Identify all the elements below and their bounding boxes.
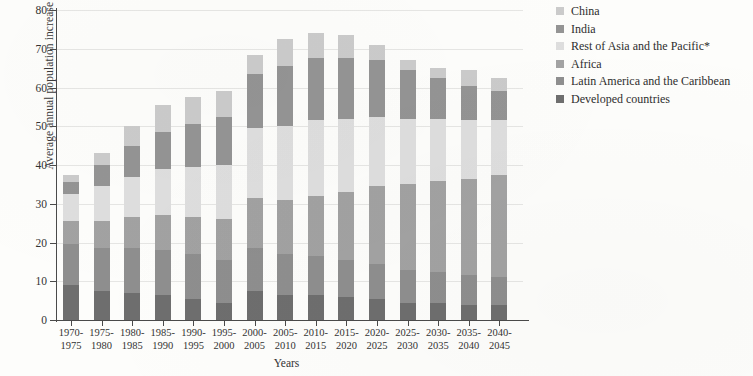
bar-segment bbox=[277, 254, 293, 295]
bar-segment bbox=[400, 60, 416, 70]
bar-segment bbox=[308, 256, 324, 295]
bar-segment bbox=[308, 295, 324, 320]
bar[interactable] bbox=[155, 105, 171, 320]
bar-segment bbox=[400, 184, 416, 269]
y-tick-mark bbox=[50, 243, 57, 244]
bar-segment bbox=[63, 182, 79, 194]
bar-segment bbox=[124, 126, 140, 145]
legend-item[interactable]: Developed countries bbox=[556, 91, 730, 107]
bar[interactable] bbox=[94, 153, 110, 320]
x-tick-label: 2040-2045 bbox=[476, 326, 522, 352]
bar[interactable] bbox=[124, 126, 140, 320]
bar-segment bbox=[155, 105, 171, 132]
bar-segment bbox=[124, 248, 140, 293]
legend-swatch-icon bbox=[556, 77, 564, 85]
plot-area: 01020304050607080 bbox=[57, 10, 523, 320]
legend-item[interactable]: Rest of Asia and the Pacific* bbox=[556, 38, 730, 54]
y-tick-label: 60 bbox=[36, 82, 48, 94]
x-axis-line bbox=[51, 320, 529, 321]
bar-segment bbox=[338, 297, 354, 320]
y-tick-mark bbox=[50, 88, 57, 89]
bar-segment bbox=[277, 126, 293, 200]
y-tick: 0 bbox=[57, 320, 64, 321]
bar-segment bbox=[185, 167, 201, 217]
bar-segment bbox=[63, 285, 79, 320]
bar-segment bbox=[216, 165, 232, 219]
x-tick-label-line: 2045 bbox=[476, 339, 522, 352]
legend-item-label: China bbox=[571, 3, 600, 19]
y-axis-title: Average annual population increase (mill… bbox=[43, 0, 55, 206]
bar-segment bbox=[338, 58, 354, 118]
bar-segment bbox=[277, 39, 293, 66]
bar-segment bbox=[94, 186, 110, 221]
bar-segment bbox=[308, 120, 324, 196]
y-tick-mark bbox=[50, 281, 57, 282]
bar[interactable] bbox=[369, 45, 385, 320]
bar-segment bbox=[430, 119, 446, 181]
y-tick-mark bbox=[50, 204, 57, 205]
legend-item[interactable]: China bbox=[556, 3, 730, 19]
bar-segment bbox=[247, 55, 263, 74]
legend-swatch-icon bbox=[556, 60, 564, 68]
bar-segment bbox=[94, 248, 110, 291]
bar[interactable] bbox=[247, 55, 263, 320]
bar[interactable] bbox=[63, 175, 79, 320]
y-tick-label: 10 bbox=[36, 275, 48, 287]
bar[interactable] bbox=[430, 68, 446, 320]
bar-segment bbox=[400, 119, 416, 185]
bar-segment bbox=[491, 120, 507, 174]
bar-segment bbox=[247, 291, 263, 320]
bar-segment bbox=[155, 169, 171, 216]
bar-segment bbox=[491, 78, 507, 92]
y-tick-label: 30 bbox=[36, 198, 48, 210]
bar-segment bbox=[461, 120, 477, 178]
bar-segment bbox=[461, 275, 477, 304]
bar-segment bbox=[277, 200, 293, 254]
bar-segment bbox=[185, 124, 201, 167]
bar-segment bbox=[63, 194, 79, 221]
legend-item[interactable]: Latin America and the Caribbean bbox=[556, 73, 730, 89]
bar-segment bbox=[94, 221, 110, 248]
bar-segment bbox=[247, 74, 263, 128]
chart-legend: ChinaIndiaRest of Asia and the Pacific*A… bbox=[556, 3, 730, 108]
bar-segment bbox=[430, 78, 446, 119]
bar[interactable] bbox=[185, 97, 201, 320]
bar[interactable] bbox=[338, 35, 354, 320]
bar-segment bbox=[308, 33, 324, 58]
bar-segment bbox=[124, 217, 140, 248]
bar-segment bbox=[185, 217, 201, 254]
bar-segment bbox=[338, 192, 354, 260]
bar-segment bbox=[155, 215, 171, 250]
bar-segment bbox=[369, 117, 385, 187]
y-tick: 80 bbox=[57, 10, 64, 11]
bar-segment bbox=[400, 303, 416, 320]
bar-segment bbox=[491, 277, 507, 304]
x-tick-label-line: 2040- bbox=[476, 326, 522, 339]
bar-segment bbox=[185, 299, 201, 320]
y-tick-mark bbox=[50, 320, 57, 321]
bar-segment bbox=[155, 250, 171, 295]
y-tick-mark bbox=[50, 165, 57, 166]
bar-segment bbox=[338, 119, 354, 193]
bar-segment bbox=[277, 66, 293, 126]
bar[interactable] bbox=[461, 70, 477, 320]
bar[interactable] bbox=[308, 33, 324, 320]
bar-segment bbox=[491, 91, 507, 120]
bar-segment bbox=[461, 70, 477, 86]
bar[interactable] bbox=[216, 91, 232, 320]
legend-item[interactable]: Africa bbox=[556, 56, 730, 72]
bar-segment bbox=[247, 128, 263, 198]
bar[interactable] bbox=[277, 39, 293, 320]
y-tick-label: 40 bbox=[36, 159, 48, 171]
legend-item[interactable]: India bbox=[556, 21, 730, 37]
bar-segment bbox=[308, 196, 324, 256]
bar-segment bbox=[369, 264, 385, 299]
bar[interactable] bbox=[400, 60, 416, 320]
bar-segment bbox=[247, 248, 263, 291]
bar-segment bbox=[247, 198, 263, 248]
bar-segment bbox=[277, 295, 293, 320]
bar[interactable] bbox=[491, 78, 507, 320]
bar-segment bbox=[338, 260, 354, 297]
y-tick-label: 50 bbox=[36, 120, 48, 132]
bar-segment bbox=[369, 299, 385, 320]
